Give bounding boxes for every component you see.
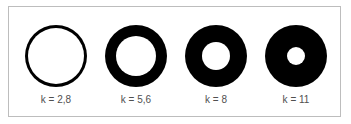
ring-3-label: k = 8: [186, 94, 246, 106]
ring-2-label: k = 5,6: [106, 94, 166, 106]
ring-4: [265, 25, 327, 87]
ring-1-hole: [28, 28, 84, 84]
ring-4-hole: [287, 47, 305, 65]
ring-2: [105, 25, 167, 87]
ring-3-hole: [202, 42, 230, 70]
ring-2-hole: [116, 36, 156, 76]
ring-4-label: k = 11: [266, 94, 326, 106]
ring-1: [25, 25, 87, 87]
ring-3: [185, 25, 247, 87]
ring-1-label: k = 2,8: [26, 94, 86, 106]
